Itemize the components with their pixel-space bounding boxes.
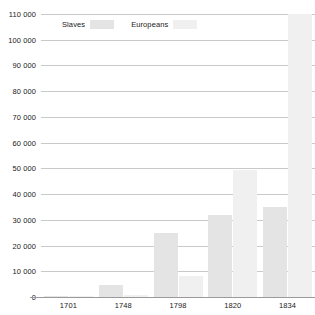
y-axis-tick-label: 50 000 <box>0 164 36 173</box>
x-axis-line <box>30 297 315 298</box>
y-axis-tick-label: 20 000 <box>0 241 36 250</box>
y-axis-tick-label: 80 000 <box>0 87 36 96</box>
bar-chart: 010 00020 00030 00040 00050 00060 00070 … <box>0 0 315 315</box>
x-axis-tick-label: 1701 <box>60 301 77 310</box>
legend-entry-slaves: Slaves <box>62 20 114 29</box>
x-axis-tick-label: 1834 <box>279 301 296 310</box>
x-axis-tick-label: 1748 <box>115 301 132 310</box>
legend-label: Europeans <box>131 20 168 29</box>
y-axis-tick-label: 10 000 <box>0 267 36 276</box>
y-axis-tick-label: 60 000 <box>0 138 36 147</box>
legend-label: Slaves <box>62 20 85 29</box>
bar-group <box>41 14 315 297</box>
bar-europeans-1820 <box>233 170 257 297</box>
bar-europeans-1798 <box>179 276 203 297</box>
y-axis-tick-label: 30 000 <box>0 215 36 224</box>
y-axis-tick-label: 110 000 <box>0 10 36 19</box>
bar-slaves-1748 <box>99 285 123 297</box>
legend-swatch <box>90 20 114 29</box>
bar-slaves-1834 <box>263 207 287 297</box>
bar-europeans-1834 <box>288 14 312 297</box>
y-axis-tick-label: 100 000 <box>0 35 36 44</box>
y-axis-tick-label: 90 000 <box>0 61 36 70</box>
plot-area <box>41 14 315 297</box>
y-axis-tick-label: 70 000 <box>0 112 36 121</box>
bar-slaves-1820 <box>208 215 232 297</box>
chart-legend: SlavesEuropeans <box>62 20 208 29</box>
legend-swatch <box>173 20 197 29</box>
y-axis-tick-label: 40 000 <box>0 190 36 199</box>
legend-entry-europeans: Europeans <box>131 20 197 29</box>
x-axis-tick-label: 1798 <box>169 301 186 310</box>
x-axis-tick-label: 1820 <box>224 301 241 310</box>
bar-slaves-1798 <box>154 233 178 297</box>
